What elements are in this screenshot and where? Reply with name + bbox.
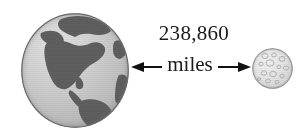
earth-globe (21, 13, 129, 128)
earth-rim-shading (21, 13, 129, 128)
arrow-head-right (238, 62, 251, 72)
earth-moon-distance-diagram: 238,860 miles (0, 0, 305, 135)
moon-globe (252, 48, 293, 89)
moon-rim-shading (252, 48, 293, 89)
distance-value-label: 238,860 (140, 22, 248, 45)
arrow-head-left (131, 62, 144, 72)
distance-unit-label: miles (162, 53, 218, 76)
